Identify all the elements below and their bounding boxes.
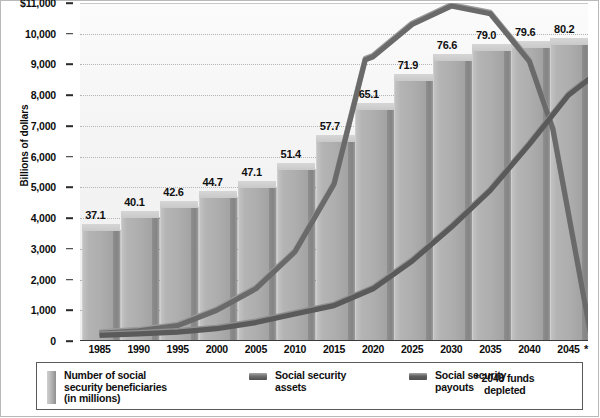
- y-tick-mark: [66, 248, 73, 250]
- legend-bar-swatch-icon: [47, 371, 56, 404]
- line-series-path: [100, 77, 588, 336]
- legend-item-0[interactable]: Number of socialsecurity beneficiaries(i…: [47, 370, 167, 405]
- line-highlight-1: [100, 5, 588, 340]
- x-tick-label: 2010: [284, 343, 306, 355]
- bar-value-label: 65.1: [359, 88, 379, 100]
- y-tick-label: 6,000: [31, 151, 56, 163]
- bar-value-label: 57.7: [320, 120, 340, 132]
- bar-value-label: 80.2: [554, 23, 574, 35]
- legend-footnote-line-2: depleted: [475, 385, 534, 397]
- x-axis-asterisk: *: [584, 343, 588, 355]
- y-tick-label: $11,000: [20, 0, 56, 9]
- bar-value-label: 76.6: [437, 39, 457, 51]
- y-tick-label: 3,000: [31, 243, 56, 255]
- y-tick-label: 10,000: [25, 28, 56, 40]
- y-tick-mark: [66, 187, 73, 189]
- legend-label-line: Number of social: [64, 370, 167, 382]
- x-tick-label: 2025: [401, 343, 423, 355]
- y-tick-label: 7,000: [31, 120, 56, 132]
- y-tick-mark: [66, 279, 73, 281]
- bar-value-label: 79.0: [476, 29, 496, 41]
- x-axis-line: [80, 340, 588, 341]
- x-tick-label: 2040: [518, 343, 540, 355]
- y-tick-mark: [66, 156, 73, 158]
- y-tick-label: 0: [50, 335, 56, 347]
- x-tick-label: 2020: [362, 343, 384, 355]
- x-tick-label: 2000: [206, 343, 228, 355]
- y-tick-mark: [66, 64, 73, 66]
- y-axis-labels: $11,00010,0009,0008,0007,0006,0005,0004,…: [0, 0, 66, 350]
- x-tick-label: 2005: [245, 343, 267, 355]
- bar-value-label: 37.1: [85, 209, 105, 221]
- bar-value-label: 71.9: [398, 59, 418, 71]
- legend-line-swatch-icon: [409, 373, 427, 380]
- y-tick-mark: [66, 340, 73, 342]
- x-axis-labels: * 19851990199520002005201020152020202520…: [80, 343, 588, 359]
- legend-item-1[interactable]: Social securityassets: [249, 370, 346, 393]
- legend-label-line: assets: [275, 382, 346, 394]
- bar-value-label: 40.1: [124, 196, 144, 208]
- x-tick-label: 2015: [323, 343, 345, 355]
- legend-footnote: * 2048 fundsdepleted: [475, 373, 534, 396]
- legend-footnote-line-1: * 2048 funds: [475, 373, 534, 385]
- bar-value-label: 42.6: [163, 186, 183, 198]
- chart-screenshot: Billions of dollars $11,00010,0009,0008,…: [0, 0, 600, 418]
- chart-legend: Number of socialsecurity beneficiaries(i…: [36, 362, 583, 410]
- line-series-path: [100, 6, 588, 341]
- x-tick-label: 2030: [440, 343, 462, 355]
- y-tick-mark: [66, 94, 73, 96]
- y-tick-mark: [66, 2, 73, 4]
- bar-value-label: 79.6: [515, 26, 535, 38]
- y-tick-mark: [66, 33, 73, 35]
- line-highlight-2: [100, 75, 588, 334]
- plot-area: [80, 3, 588, 341]
- y-tick-mark: [66, 309, 73, 311]
- y-tick-label: 1,000: [31, 304, 56, 316]
- legend-label-line: (in millions): [64, 393, 167, 405]
- y-tick-mark: [66, 125, 73, 127]
- legend-item-label: Number of socialsecurity beneficiaries(i…: [64, 370, 167, 405]
- x-tick-label: 2035: [479, 343, 501, 355]
- y-tick-label: 4,000: [31, 212, 56, 224]
- bar-value-label: 44.7: [202, 176, 222, 188]
- x-tick-label: 1995: [167, 343, 189, 355]
- y-tick-label: 9,000: [31, 58, 56, 70]
- y-tick-label: 2,000: [31, 274, 56, 286]
- y-tick-label: 5,000: [31, 181, 56, 193]
- y-tick-label: 8,000: [31, 89, 56, 101]
- legend-label-line: Social security: [275, 370, 346, 382]
- x-tick-label: 2045: [557, 343, 579, 355]
- line-series: [80, 3, 588, 341]
- legend-line-swatch-icon: [249, 373, 267, 380]
- x-tick-label: 1985: [88, 343, 110, 355]
- legend-item-label: Social securityassets: [275, 370, 346, 393]
- y-tick-mark: [66, 217, 73, 219]
- x-tick-label: 1990: [128, 343, 150, 355]
- bar-value-label: 51.4: [281, 148, 301, 160]
- bar-value-label: 47.1: [241, 166, 261, 178]
